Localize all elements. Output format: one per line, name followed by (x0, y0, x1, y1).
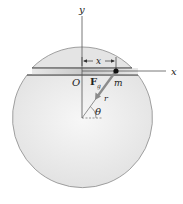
force-label-main: F (90, 76, 97, 87)
mass-dot (113, 68, 118, 73)
force-label-sub: g (97, 82, 101, 90)
tunnel-sphere-diagram: y x O m Fg r θ x (0, 0, 183, 204)
distance-x-label: x (96, 56, 101, 66)
origin-label: O (72, 77, 80, 88)
angle-label: θ (95, 106, 101, 117)
x-axis-label: x (171, 66, 177, 77)
mass-label: m (114, 78, 123, 88)
y-axis-label: y (78, 4, 85, 15)
tunnel (32, 68, 138, 75)
sphere-body (13, 75, 153, 188)
